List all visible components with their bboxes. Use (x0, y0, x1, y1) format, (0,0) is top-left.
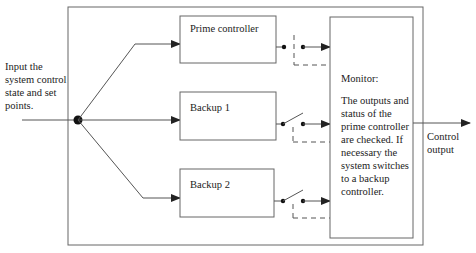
monitor-title: Monitor: (341, 73, 378, 84)
redundant-controller-diagram: Input the system control state and set p… (0, 0, 476, 253)
prime-controller-label: Prime controller (190, 23, 259, 34)
backup1-label: Backup 1 (190, 102, 230, 113)
backup1-box (180, 92, 276, 140)
control-output-label: Control output (427, 131, 462, 155)
input-label: Input the system control state and set p… (5, 61, 69, 111)
backup2-label: Backup 2 (190, 179, 230, 190)
backup2-box (180, 169, 274, 217)
